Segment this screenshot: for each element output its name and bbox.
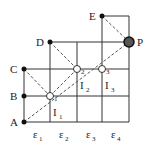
epsilon-label-1-subscript: 1 — [39, 135, 43, 143]
point-e-marker — [100, 14, 105, 19]
interval-label-2: I — [80, 79, 84, 91]
interval-label-1: I — [53, 106, 57, 118]
interval-label-1-subscript: 1 — [59, 113, 63, 121]
epsilon-label-3: ε — [86, 128, 91, 140]
point-label-b: B — [10, 90, 17, 102]
interval-label-3: I — [105, 79, 109, 91]
point-p-marker — [124, 37, 134, 47]
epsilon-label-3-subscript: 3 — [92, 135, 96, 143]
interval-label-3-subscript: 3 — [111, 86, 115, 94]
epsilon-label-2: ε — [59, 128, 64, 140]
point-label-d: D — [36, 36, 44, 48]
epsilon-label-4-subscript: 4 — [117, 135, 121, 143]
point-a-marker — [22, 120, 27, 125]
node-o1-sub: 1 — [54, 95, 58, 103]
node-o3-sub: 3 — [106, 68, 110, 76]
point-b-marker — [22, 94, 27, 99]
epsilon-label-2-subscript: 2 — [65, 135, 69, 143]
node-o3-circle — [99, 66, 106, 73]
epsilon-label-4: ε — [111, 128, 116, 140]
point-label-e: E — [89, 10, 96, 22]
point-label-p: P — [137, 36, 143, 48]
node-o2-circle — [74, 66, 81, 73]
grid-path-diagram: ABCDEP123I1I2I3ε1ε2ε3ε4 — [0, 0, 150, 143]
node-o1-circle — [47, 93, 54, 100]
interval-label-2-subscript: 2 — [86, 86, 90, 94]
point-label-a: A — [10, 116, 18, 128]
point-d-marker — [48, 40, 53, 45]
point-label-c: C — [10, 63, 17, 75]
point-c-marker — [22, 67, 27, 72]
epsilon-label-1: ε — [33, 128, 38, 140]
node-o2-sub: 2 — [81, 68, 85, 76]
